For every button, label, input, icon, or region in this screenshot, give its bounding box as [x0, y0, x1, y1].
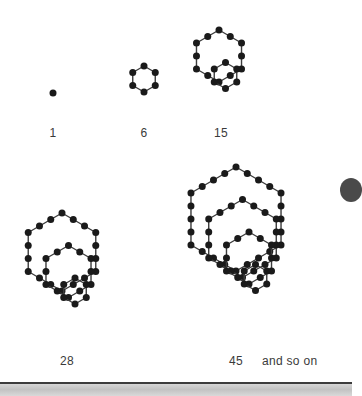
lattice-dot [234, 235, 241, 242]
lattice-dot [152, 82, 159, 89]
lattice-dot [36, 275, 43, 282]
lattice-dot [152, 69, 159, 76]
lattice-dot [25, 255, 32, 262]
figure-label-28: 28 [52, 354, 82, 368]
lattice-dot [227, 72, 234, 79]
lattice-dot [199, 183, 206, 190]
lattice-dot [211, 66, 218, 73]
figure-45 [187, 164, 284, 295]
lattice-dot [257, 274, 264, 281]
lattice-dot [250, 203, 257, 210]
lattice-dot [88, 268, 95, 275]
lattice-dot [129, 82, 136, 89]
lattice-dot [222, 59, 229, 66]
ring-edge-path [191, 167, 281, 271]
lattice-dot [187, 203, 194, 210]
lattice-dot [216, 209, 223, 216]
lattice-dot [187, 242, 194, 249]
lattice-dot [252, 261, 259, 268]
lattice-dot [187, 229, 194, 236]
lattice-dot [221, 170, 228, 177]
figure-label-15: 15 [206, 126, 236, 140]
lattice-dot [233, 164, 240, 171]
lattice-dot [60, 294, 67, 301]
lattice-dot [223, 242, 230, 249]
lattice-dot [210, 177, 217, 184]
lattice-dot [76, 288, 83, 295]
lattice-dot [141, 63, 148, 70]
lattice-dot [227, 33, 234, 40]
lattice-dot [228, 203, 235, 210]
figures-layer [25, 27, 285, 308]
lattice-dot [88, 255, 95, 262]
lattice-dot [92, 229, 99, 236]
lattice-dot [92, 242, 99, 249]
ring-edge-path [196, 30, 241, 82]
lattice-dot [205, 216, 212, 223]
continuation-text: and so on [262, 354, 340, 368]
lattice-dot [193, 40, 200, 47]
lattice-dot [141, 89, 148, 96]
lattice-dot [268, 242, 275, 249]
lattice-dot [216, 261, 223, 268]
lattice-dot [278, 203, 285, 210]
figure-label-1: 1 [39, 126, 67, 140]
lattice-dot [47, 216, 54, 223]
lattice-dot [76, 249, 83, 256]
lattice-dot [263, 268, 270, 275]
lattice-dot [187, 190, 194, 197]
lattice-dot [70, 281, 77, 288]
lattice-dot [50, 90, 57, 97]
figure-label-6: 6 [130, 126, 158, 140]
lattice-dot [244, 261, 251, 268]
lattice-dot [263, 281, 270, 288]
lattice-dot [81, 223, 88, 230]
lattice-dot [223, 255, 230, 262]
lattice-dot [25, 268, 32, 275]
lattice-dot [70, 216, 77, 223]
lattice-dot [72, 275, 79, 282]
lattice-dot [278, 190, 285, 197]
ring-edge-path [226, 232, 271, 284]
lattice-dot [65, 242, 72, 249]
lattice-dot [42, 268, 49, 275]
lattice-dot [262, 261, 269, 268]
lattice-dot [193, 53, 200, 60]
lattice-dot [244, 170, 251, 177]
lattice-dot [268, 255, 275, 262]
lattice-dot [223, 268, 230, 275]
lattice-dot [42, 281, 49, 288]
ring-edge-path [46, 246, 91, 298]
lattice-dot [42, 255, 49, 262]
lattice-dot [204, 33, 211, 40]
lattice-dot [72, 301, 79, 308]
figure-15 [193, 27, 245, 93]
lattice-dot [216, 27, 223, 34]
lattice-dot [205, 242, 212, 249]
lattice-dot [54, 249, 61, 256]
lattice-dot [255, 177, 262, 184]
lattice-dot [273, 216, 280, 223]
lattice-dot [81, 275, 88, 282]
lattice-dot [199, 248, 206, 255]
figure-6 [129, 63, 159, 96]
lattice-dot [36, 223, 43, 230]
lattice-dot [255, 255, 262, 262]
lattice-dot [60, 281, 67, 288]
lattice-dot [233, 79, 240, 86]
lattice-dot [262, 209, 269, 216]
page-bottom-band [0, 384, 352, 396]
lattice-dot [205, 229, 212, 236]
lattice-dot [83, 294, 90, 301]
lattice-dot [250, 268, 257, 275]
lattice-dot [234, 274, 241, 281]
lattice-dot [241, 281, 248, 288]
lattice-dot [252, 287, 259, 294]
lattice-dot [266, 183, 273, 190]
lattice-dot [222, 85, 229, 92]
figure-28 [25, 210, 100, 308]
lattice-dot [187, 216, 194, 223]
lattice-dot [238, 40, 245, 47]
lattice-dot [25, 242, 32, 249]
